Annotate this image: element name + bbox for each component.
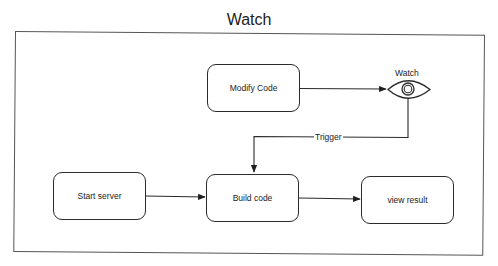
watch-node-label: Watch — [395, 68, 419, 78]
edge-build-to-view — [299, 198, 360, 199]
node-start-server-label: Start server — [78, 191, 122, 201]
diagram-canvas: Watch Watch Modify Code Start server Bui… — [0, 0, 498, 266]
edge-label-trigger: Trigger — [314, 132, 343, 142]
node-modify-code: Modify Code — [207, 64, 300, 112]
node-build-code: Build code — [206, 174, 299, 222]
edge-modify-to-watch — [300, 89, 386, 90]
node-view-result: view result — [361, 176, 454, 224]
eye-icon — [388, 81, 430, 99]
node-view-result-label: view result — [387, 195, 427, 205]
node-start-server: Start server — [53, 172, 146, 220]
figure-caption-cropped — [150, 260, 330, 266]
node-modify-code-label: Modify Code — [230, 83, 278, 93]
edges-layer — [0, 0, 498, 266]
node-build-code-label: Build code — [233, 193, 273, 203]
edge-start-to-build — [145, 196, 205, 197]
